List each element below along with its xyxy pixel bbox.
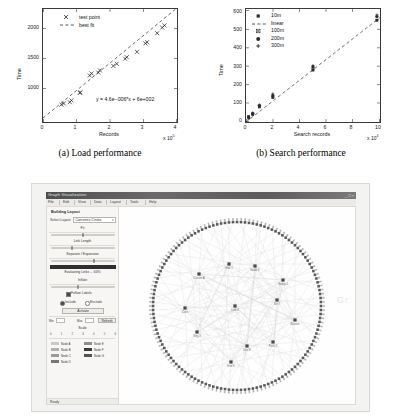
graph-node[interactable] [267,383,270,386]
min-input[interactable] [56,318,65,323]
graph-node[interactable] [156,277,159,280]
graph-node[interactable] [172,360,175,363]
graph-node[interactable] [297,363,300,366]
menu-item-help[interactable]: Help [149,200,156,204]
graph-node[interactable] [175,363,178,366]
graph-node[interactable] [310,343,313,346]
graph-node[interactable] [304,353,307,356]
graph-node[interactable] [244,388,247,391]
graph-node[interactable] [194,232,197,235]
graph-node[interactable] [197,379,200,382]
refresh-button[interactable]: Refresh [98,318,116,323]
layout-select[interactable]: Concentric Circles ▾ [73,217,116,223]
graph-node[interactable] [194,377,197,380]
graph-node[interactable] [172,250,175,253]
graph-node[interactable] [256,223,259,226]
graph-node[interactable] [308,347,311,350]
graph-node[interactable] [197,230,200,233]
graph-node[interactable] [278,377,281,380]
graph-node[interactable] [302,253,305,256]
graph-node[interactable] [252,222,255,225]
graph-node[interactable] [201,381,204,384]
graph-node[interactable] [312,270,315,273]
graph-node[interactable] [187,236,190,239]
menu-item-edit[interactable]: Edit [63,200,69,204]
graph-node[interactable] [154,285,157,288]
graph-node[interactable] [314,336,317,339]
graph-node[interactable] [306,259,309,262]
graph-node[interactable] [236,221,239,224]
graph-node[interactable] [163,263,166,266]
menu-item-layout[interactable]: Layout [110,200,121,204]
activate-button[interactable]: Activate [62,308,104,314]
graph-node[interactable] [281,375,284,378]
graph-node[interactable] [259,224,262,227]
graph-node[interactable] [212,385,215,388]
graph-node[interactable] [294,244,297,247]
graph-node[interactable] [212,224,215,227]
graph-node[interactable] [205,383,208,386]
graph-node[interactable] [181,241,184,244]
graph-node[interactable] [159,340,162,343]
menu-item-view[interactable]: View [78,200,86,204]
graph-node[interactable] [190,234,193,237]
graph-node[interactable] [228,221,231,224]
graph-node[interactable] [224,388,227,391]
graph-node[interactable] [224,222,227,225]
graph-node[interactable] [155,281,158,284]
graph-node[interactable] [208,384,211,387]
menu-item-file[interactable]: File [48,200,54,204]
graph-node[interactable] [308,263,311,266]
graph-node[interactable] [228,388,231,391]
graph-node[interactable] [153,289,156,292]
follow-labels-checkbox[interactable] [66,292,71,297]
graph-node[interactable] [267,227,270,230]
graph-node[interactable] [244,221,247,224]
graph-node[interactable] [232,221,235,224]
graph-node[interactable] [178,366,181,369]
graph-node[interactable] [153,293,156,296]
graph-node[interactable] [316,281,319,284]
graph-node[interactable] [248,222,251,225]
graph-node[interactable] [208,225,211,228]
graph-node[interactable] [317,285,320,288]
window-controls[interactable]: _ □ × [345,193,354,198]
graph-node[interactable] [310,266,313,269]
menu-item-data[interactable]: Data [94,200,102,204]
graph-node[interactable] [319,313,322,316]
inflate-slider-knob[interactable] [77,285,79,290]
graph-node[interactable] [320,305,323,308]
radial-graph[interactable]: Cluster AHub 1Node XGroup 2CoreLink 4Set… [119,207,356,404]
inflate-slider[interactable] [51,286,115,288]
graph-node[interactable] [271,381,274,384]
graph-node[interactable] [220,387,223,390]
graph-node[interactable] [304,256,307,259]
fit-slider[interactable] [51,234,115,236]
fit-slider-knob[interactable] [82,233,84,238]
include-radio[interactable] [60,301,65,306]
graph-node[interactable] [175,247,178,250]
graph-node[interactable] [232,389,235,392]
graph-node[interactable] [314,274,317,277]
graph-node[interactable] [281,234,284,237]
graph-node[interactable] [299,360,302,363]
graph-node[interactable] [317,325,320,328]
graph-node[interactable] [153,321,156,324]
graph-node[interactable] [184,239,187,242]
graph-node[interactable] [318,289,321,292]
graph-node[interactable] [181,368,184,371]
expansion-slider[interactable] [51,260,115,262]
graph-node[interactable] [170,357,173,360]
graph-node[interactable] [263,384,266,387]
graph-node[interactable] [319,293,322,296]
graph-node[interactable] [302,357,305,360]
graph-node[interactable] [315,332,318,335]
graph-node[interactable] [256,386,259,389]
graph-node[interactable] [158,274,161,277]
graph-node[interactable] [178,244,181,247]
graph-node[interactable] [316,328,319,331]
graph-node[interactable] [248,388,251,391]
graph-node[interactable] [155,328,158,331]
graph-node[interactable] [271,228,274,231]
graph-node[interactable] [306,350,309,353]
